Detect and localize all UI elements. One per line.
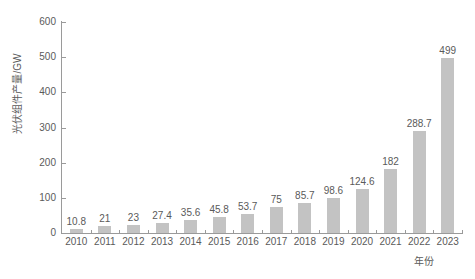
y-tick-label: 300 [22, 123, 56, 133]
bar [441, 58, 454, 233]
y-axis-title: 光伏组件产量/GW [9, 44, 24, 144]
bar [127, 225, 140, 233]
bar-value-label: 124.6 [340, 176, 384, 187]
y-tick-mark [62, 233, 66, 234]
bar [241, 214, 254, 233]
bar [156, 223, 169, 233]
bar [356, 189, 369, 233]
x-tick-mark [462, 230, 463, 234]
bar-value-label: 288.7 [397, 118, 441, 129]
y-tick-label: 200 [22, 158, 56, 168]
y-tick-label: 600 [22, 17, 56, 27]
bar-value-label: 499 [426, 45, 470, 56]
x-tick-label: 2023 [426, 236, 470, 248]
x-axis-title: 年份 [414, 253, 434, 268]
bar [184, 220, 197, 233]
y-tick-label: 100 [22, 193, 56, 203]
y-tick-label: 400 [22, 87, 56, 97]
bar [70, 229, 83, 233]
bar [413, 131, 426, 233]
y-tick-label: 500 [22, 52, 56, 62]
y-tick-label: 0 [22, 228, 56, 238]
bar-value-label: 182 [369, 156, 413, 167]
bar [270, 207, 283, 233]
bar [327, 198, 340, 233]
bar [384, 169, 397, 233]
bar [213, 217, 226, 233]
bar-chart-figure: 0100200300400500600 10.8212327.435.645.8… [0, 0, 475, 279]
bar [298, 203, 311, 233]
bar [98, 226, 111, 233]
